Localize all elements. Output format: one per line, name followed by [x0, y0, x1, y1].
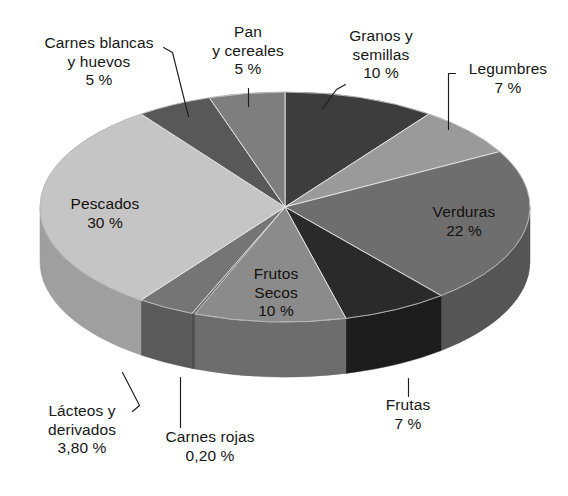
label-line-1: Verduras — [411, 203, 517, 222]
pie-side-carnes-rojas — [192, 313, 195, 369]
label-carnes-blancas-y-huevos: Carnes blancas y huevos 5 % — [34, 34, 164, 90]
label-pescados: Pescados 30 % — [50, 195, 160, 232]
label-value: 10 % — [330, 64, 432, 83]
pie-chart-figure: Carnes blancas y huevos 5 % Pan y cereal… — [0, 0, 568, 496]
label-value: 30 % — [50, 214, 160, 233]
label-value: 5 % — [192, 60, 304, 79]
label-value: 10 % — [224, 302, 328, 321]
label-granos-y-semillas: Granos y semillas 10 % — [330, 27, 432, 83]
label-line-1: Frutas — [358, 396, 458, 415]
label-lacteos-y-derivados: Lácteos y derivados 3,80 % — [28, 402, 136, 458]
label-line-2: y cereales — [192, 42, 304, 61]
label-line-1: Pan — [192, 23, 304, 42]
label-line-1: Carnes rojas — [146, 428, 274, 447]
label-value: 0,20 % — [146, 447, 274, 466]
label-line-1: Legumbres — [452, 60, 564, 79]
label-pan-y-cereales: Pan y cereales 5 % — [192, 23, 304, 79]
label-line-1: Lácteos y — [28, 402, 136, 421]
label-value: 7 % — [452, 79, 564, 98]
label-line-2: Secos — [224, 284, 328, 303]
label-line-1: Granos y — [330, 27, 432, 46]
label-line-1: Frutos — [224, 265, 328, 284]
label-carnes-rojas: Carnes rojas 0,20 % — [146, 428, 274, 465]
label-line-2: derivados — [28, 421, 136, 440]
label-line-1: Carnes blancas — [34, 34, 164, 53]
label-line-1: Pescados — [50, 195, 160, 214]
label-value: 3,80 % — [28, 439, 136, 458]
label-value: 5 % — [34, 71, 164, 90]
label-value: 22 % — [411, 222, 517, 241]
label-verduras: Verduras 22 % — [411, 203, 517, 240]
label-frutas: Frutas 7 % — [358, 396, 458, 433]
label-line-2: y huevos — [34, 53, 164, 72]
label-line-2: semillas — [330, 46, 432, 65]
label-value: 7 % — [358, 415, 458, 434]
label-legumbres: Legumbres 7 % — [452, 60, 564, 97]
label-frutos-secos: Frutos Secos 10 % — [224, 265, 328, 321]
pie-side-frutos-secos — [195, 314, 346, 377]
